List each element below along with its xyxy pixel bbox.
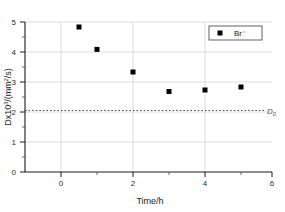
y-ticklabel-0: 0 [12,168,17,177]
x-ticklabel-0: 0 [59,179,64,188]
y-ticklabel-1: 1 [12,138,17,147]
data-point[interactable] [239,85,244,90]
y-axis-title-suffix: /s) [3,68,13,78]
data-point[interactable] [203,88,208,93]
chart-figure: D0 0 2 4 6 [0,0,285,212]
x-ticklabel-6: 6 [270,179,275,188]
data-point[interactable] [131,70,136,75]
y-ticklabel-4: 4 [12,48,17,57]
legend-label-br-minus: Br⁻ [234,29,246,38]
x-ticklabel-4: 4 [203,179,208,188]
y-axis-title: Dx103/(mm2/s) [3,68,14,126]
legend-marker-square-icon [218,31,223,36]
x-axis-title: Time/h [136,196,163,206]
data-point[interactable] [77,25,82,30]
x-ticklabel-2: 2 [131,179,136,188]
scatter-plot-svg: D0 0 2 4 6 [0,0,285,212]
y-ticklabel-5: 5 [12,18,17,27]
legend[interactable]: Br⁻ [209,26,262,40]
y-axis-title-mid: /(mm [3,81,13,102]
y-axis-title-prefix: Dx10 [3,105,13,126]
data-point[interactable] [95,47,100,52]
data-point[interactable] [167,89,172,94]
